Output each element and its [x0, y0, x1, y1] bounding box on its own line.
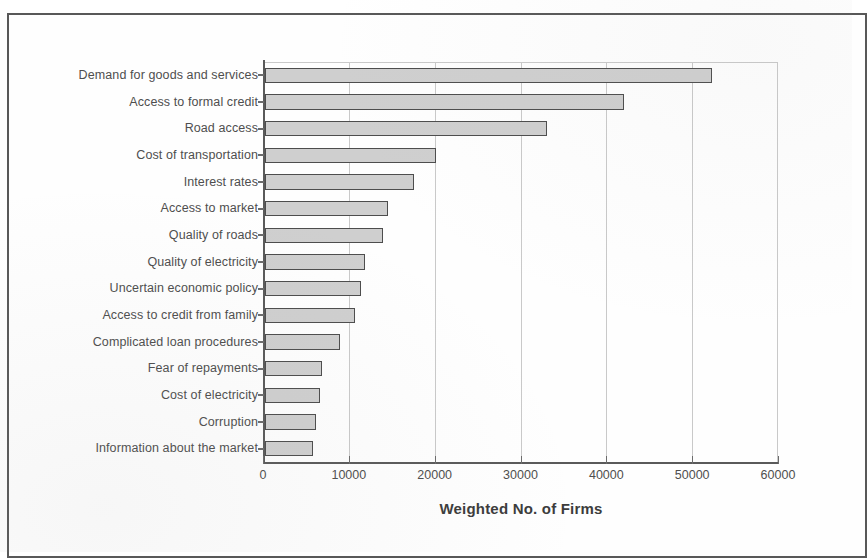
bar [265, 441, 313, 456]
y-axis-tick [258, 421, 264, 423]
bar [265, 334, 340, 349]
y-axis-tick [258, 208, 264, 210]
bar [265, 228, 383, 243]
bar-row: Fear of repayments [0, 355, 852, 382]
y-axis-tick [258, 288, 264, 290]
bar-row: Interest rates [0, 169, 852, 196]
x-tick-label: 40000 [589, 468, 624, 482]
x-axis-tick [349, 456, 350, 464]
x-tick-label: 50000 [675, 468, 710, 482]
y-axis-tick [258, 341, 264, 343]
x-axis-tick [778, 456, 779, 464]
y-axis-tick [258, 261, 264, 263]
category-label: Interest rates [184, 169, 258, 196]
category-label: Demand for goods and services [79, 62, 258, 89]
category-label: Access to market [161, 195, 258, 222]
bar [265, 148, 436, 163]
y-axis-tick [258, 394, 264, 396]
y-axis-tick [258, 128, 264, 130]
bar [265, 361, 322, 376]
bar-row: Access to credit from family [0, 302, 852, 329]
category-label: Access to formal credit [129, 89, 258, 116]
x-tick-label: 0 [260, 468, 267, 482]
bar [265, 388, 320, 403]
bar [265, 68, 712, 83]
bar-row: Road access [0, 115, 852, 142]
category-label: Fear of repayments [148, 355, 258, 382]
category-label: Road access [185, 115, 258, 142]
y-axis-tick [258, 154, 264, 156]
category-label: Cost of transportation [136, 142, 258, 169]
x-axis-tick [521, 456, 522, 464]
x-tick-label: 20000 [417, 468, 452, 482]
bar-row: Uncertain economic policy [0, 275, 852, 302]
bar-row: Corruption [0, 409, 852, 436]
x-axis-tick [435, 456, 436, 464]
y-axis-tick [258, 448, 264, 450]
bar-row: Quality of electricity [0, 249, 852, 276]
bar-row: Demand for goods and services [0, 62, 852, 89]
y-axis-tick [258, 368, 264, 370]
x-axis-tick [606, 456, 607, 464]
y-axis-tick [258, 181, 264, 183]
x-axis-title: Weighted No. of Firms [263, 500, 779, 517]
bar [265, 94, 624, 109]
bar [265, 414, 316, 429]
x-axis-tick [692, 456, 693, 464]
bar [265, 281, 361, 296]
category-label: Quality of roads [169, 222, 258, 249]
x-tick-label: 60000 [761, 468, 796, 482]
y-axis-tick [258, 74, 264, 76]
bar [265, 201, 388, 216]
bar-row: Access to formal credit [0, 89, 852, 116]
y-axis-tick [258, 234, 264, 236]
bar [265, 254, 365, 269]
bar-row: Cost of electricity [0, 382, 852, 409]
bar-row: Cost of transportation [0, 142, 852, 169]
y-axis-tick [258, 314, 264, 316]
bar [265, 174, 414, 189]
bar-row: Complicated loan procedures [0, 329, 852, 356]
bar-row: Quality of roads [0, 222, 852, 249]
category-label: Access to credit from family [102, 302, 258, 329]
bar [265, 121, 547, 136]
category-label: Information about the market [95, 435, 258, 462]
x-tick-label: 30000 [503, 468, 538, 482]
x-axis-tick [263, 456, 264, 464]
bar [265, 308, 355, 323]
y-axis-tick [258, 101, 264, 103]
category-label: Uncertain economic policy [110, 275, 258, 302]
category-label: Quality of electricity [147, 249, 258, 276]
bar-row: Information about the market [0, 435, 852, 462]
x-tick-label: 10000 [331, 468, 366, 482]
category-label: Cost of electricity [161, 382, 258, 409]
bar-row: Access to market [0, 195, 852, 222]
category-label: Corruption [199, 409, 258, 436]
category-label: Complicated loan procedures [93, 329, 258, 356]
